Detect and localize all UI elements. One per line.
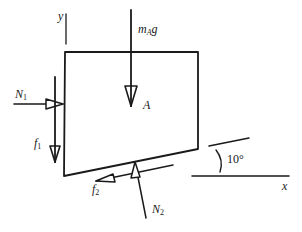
incline-reference-line [209,138,249,146]
n2-arrow-head-icon [131,162,140,178]
weight-label: mAg [138,23,158,37]
f1-label: f1 [34,137,41,151]
angle-arc-icon [216,150,221,172]
y-axis-label: y [58,10,63,22]
free-body-diagram: y mAg A N1 f1 f2 N2 10° x [0,0,302,232]
f2-label: f2 [92,183,99,197]
body-label: A [143,99,150,111]
n2-label: N2 [152,203,164,217]
n1-label: N1 [15,88,27,102]
f2-arrow-head-icon [96,174,115,182]
x-axis-label: x [282,180,287,192]
angle-label: 10° [227,153,244,165]
